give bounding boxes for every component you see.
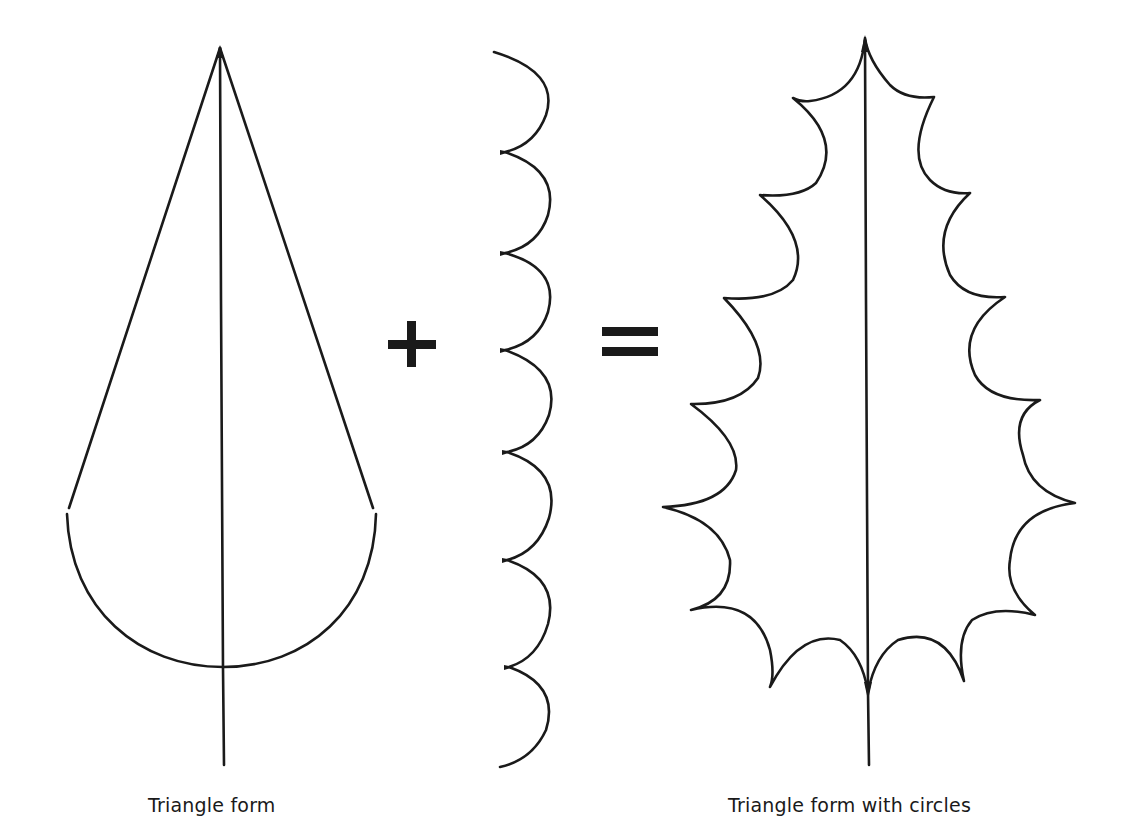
triangle-left-side [69,48,220,508]
scallop-cusp-marks [500,150,514,670]
holly-apex-tip [861,35,869,52]
holly-base-tip [864,682,872,700]
holly-leaf [663,35,1075,765]
triangle-form [67,45,376,765]
diagram-canvas [0,0,1125,821]
plus-sign [388,321,436,367]
equals-sign [602,327,658,356]
triangle-apex-tip [216,45,224,58]
scallop-arcs [494,52,551,767]
caption-triangle-form-with-circles: Triangle form with circles [728,794,971,816]
triangle-midrib [220,48,224,765]
holly-leaf-outline [663,38,1075,692]
holly-leaf-midrib [865,40,869,765]
triangle-right-side [220,48,373,508]
caption-triangle-form: Triangle form [148,794,276,816]
scallop-column [494,52,551,767]
